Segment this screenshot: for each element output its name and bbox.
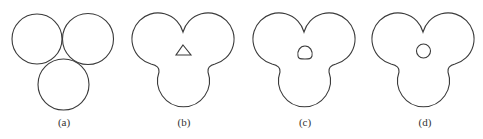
circle-top-left <box>12 14 62 64</box>
circle-bottom <box>38 59 89 110</box>
panel-a-shapes <box>12 14 114 111</box>
trefoil-outline <box>372 13 474 107</box>
panel-b-shapes <box>132 13 234 107</box>
trefoil-outline <box>253 13 355 107</box>
panel-label-a: (a) <box>58 116 70 128</box>
panel-label-b: (b) <box>178 116 191 128</box>
triangle-hole <box>176 45 191 55</box>
panel-label-c: (c) <box>299 116 311 128</box>
trefoil-outline <box>132 13 234 107</box>
panel-label-d: (d) <box>419 116 432 128</box>
rounded-triangle-hole <box>298 46 312 59</box>
figure-canvas <box>0 0 483 139</box>
panel-c-shapes <box>253 13 355 107</box>
panel-d-shapes <box>372 13 474 107</box>
circle-hole <box>417 44 431 58</box>
circle-top-right <box>63 14 114 65</box>
